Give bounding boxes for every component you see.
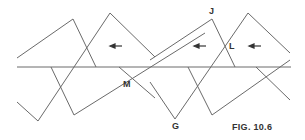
zigzag-G bbox=[150, 13, 290, 119]
label-L: L bbox=[229, 42, 235, 51]
label-M: M bbox=[123, 80, 131, 89]
figure-caption: FIG. 10.6 bbox=[232, 122, 272, 132]
label-J: J bbox=[209, 7, 214, 16]
upper-zigzag-1 bbox=[17, 19, 96, 67]
label-G: G bbox=[172, 122, 179, 131]
left-arrow-icon bbox=[110, 44, 122, 48]
zigzag-diagram bbox=[0, 0, 305, 140]
left-arrow-icon bbox=[194, 44, 206, 48]
left-arrow-icon bbox=[249, 44, 261, 48]
lower-zigzag-1 bbox=[51, 33, 205, 115]
lower-zigzag-2 bbox=[188, 60, 290, 115]
